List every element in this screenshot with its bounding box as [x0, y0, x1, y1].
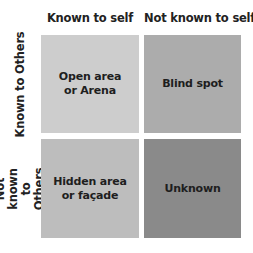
row-header-not-known-to-others: Not known to Others: [0, 139, 40, 238]
quadrant-label: Open area or Arena: [59, 70, 121, 98]
quadrant-label: Unknown: [164, 182, 220, 196]
quadrant-label: Hidden area or façade: [53, 175, 126, 203]
column-header-not-known-to-self: Not known to self: [144, 8, 241, 28]
row-header-label: Known to Others: [14, 31, 27, 137]
quadrant-hidden-area: Hidden area or façade: [41, 139, 139, 238]
quadrant-label: Blind spot: [162, 77, 223, 91]
quadrant-unknown: Unknown: [144, 139, 241, 238]
column-header-known-to-self: Known to self: [41, 8, 139, 28]
row-header-label: Not known to Others: [0, 167, 46, 210]
quadrant-open-area: Open area or Arena: [41, 35, 139, 133]
row-header-known-to-others: Known to Others: [0, 35, 40, 133]
quadrant-blind-spot: Blind spot: [144, 35, 241, 133]
